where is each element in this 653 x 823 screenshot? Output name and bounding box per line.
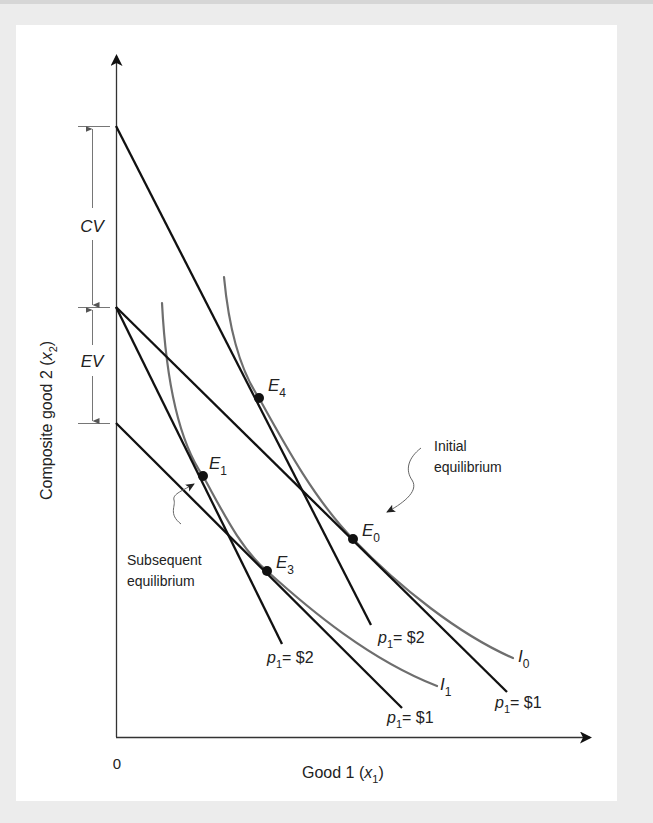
label-e1: E1 [209,454,227,478]
label-price-steep-low: p1= $2 [266,649,314,670]
origin-label: 0 [113,755,121,772]
equilibrium-points [198,393,358,576]
label-price-flat-high: p1= $1 [494,694,542,715]
annotation-subsequent-arrow [173,484,194,524]
y-axis-label: Composite good 2 (x2) [38,341,59,500]
annotation-subsequent-line2: equilibrium [127,573,195,589]
axes [116,56,590,738]
x-axis-label: Good 1 (x1) [302,764,384,785]
indifference-curves [162,277,513,686]
point-e0 [348,534,358,544]
point-e3 [262,566,272,576]
annotation-initial-line2: equilibrium [434,459,502,475]
cv-label: CV [80,217,105,236]
annotation-initial-arrow [387,448,421,512]
label-i1: I1 [440,675,452,699]
budget-line-initial-p1 [116,307,507,692]
label-i0: I0 [518,647,530,671]
cv-ev-dimensions [78,127,110,424]
label-e0: E0 [362,521,380,545]
cv-ev-diagram: CV EV E4 E1 E0 E3 I0 I1 p1= $2 [0,0,653,823]
point-e4 [254,393,264,403]
label-e4: E4 [268,376,286,400]
ev-label: EV [81,352,105,371]
annotation-initial-line1: Initial [434,438,467,454]
annotation-subsequent-line1: Subsequent [127,552,202,568]
label-price-steep-high: p1= $2 [377,629,425,650]
label-e3: E3 [276,553,294,577]
label-price-flat-low: p1= $1 [386,709,434,730]
point-e1 [198,471,208,481]
